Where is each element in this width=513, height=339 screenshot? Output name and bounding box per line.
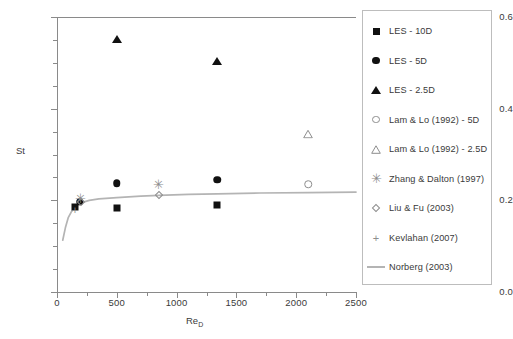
y-tick-label: 0.0 [467,286,513,297]
x-tick-label: 0 [37,297,77,308]
x-axis-title-base: Re [186,315,198,326]
y-tick [53,132,57,133]
x-tick [266,292,267,296]
legend-item[interactable]: +Kevlahan (2007) [363,227,493,249]
legend-item-label: LES - 10D [389,26,432,36]
legend-item[interactable]: ✳Zhang & Dalton (1997) [363,168,493,190]
legend: LES - 10DLES - 5DLES - 2.5DLam & Lo (199… [362,10,492,285]
y-tick [53,223,57,224]
legend-item-label: Kevlahan (2007) [389,233,458,243]
line-icon [363,256,389,278]
x-axis-title-subscript: D [198,321,203,328]
data-point [303,129,313,138]
y-tick [51,17,57,18]
data-point [113,205,120,212]
x-tick-label: 500 [97,297,137,308]
legend-item-label: Norberg (2003) [389,262,453,272]
data-point [112,35,122,43]
x-tick [207,292,208,296]
legend-item-label: Zhang & Dalton (1997) [389,174,484,184]
filled-square-icon [363,20,389,42]
data-point [214,201,221,208]
legend-item[interactable]: Liu & Fu (2003) [363,197,493,219]
y-tick [53,63,57,64]
open-circle-icon [363,109,389,131]
legend-item-label: Lam & Lo (1992) - 2.5D [389,144,487,154]
x-tick-label: 2500 [336,297,376,308]
data-point [113,180,121,188]
data-point: ✳ [153,180,165,189]
open-triangle-icon [363,138,389,160]
y-tick [53,269,57,270]
x-tick-label: 1000 [157,297,197,308]
data-point: + [69,206,81,214]
plus-icon: + [363,227,389,249]
y-axis-title: St [16,145,25,156]
y-tick [51,200,57,201]
y-tick [53,40,57,41]
y-tick [51,109,57,110]
x-tick [87,292,88,296]
data-point [304,181,312,189]
legend-item[interactable]: Lam & Lo (1992) - 2.5D [363,138,493,160]
legend-item[interactable]: Norberg (2003) [363,256,493,278]
open-diamond-icon [363,197,389,219]
legend-item[interactable]: LES - 5D [363,50,493,72]
asterisk-icon: ✳ [363,168,389,190]
y-tick [53,86,57,87]
legend-item-label: Lam & Lo (1992) - 5D [389,115,479,125]
y-tick [53,177,57,178]
filled-triangle-icon [363,79,389,101]
x-tick [147,292,148,296]
x-tick [326,292,327,296]
legend-item-label: Liu & Fu (2003) [389,203,454,213]
y-tick [53,155,57,156]
legend-item[interactable]: LES - 2.5D [363,79,493,101]
x-tick-label: 1500 [216,297,256,308]
data-point [212,57,222,65]
plot-area [57,17,356,292]
legend-item-label: LES - 5D [389,56,427,66]
strouhal-reynolds-chart: 0.00.20.40.605001000150020002500 ✳✳+ St … [0,0,513,339]
data-point [214,176,222,184]
x-tick-label: 2000 [276,297,316,308]
legend-item[interactable]: Lam & Lo (1992) - 5D [363,109,493,131]
legend-item[interactable]: LES - 10D [363,20,493,42]
y-tick [53,246,57,247]
x-axis-title: ReD [186,315,203,328]
legend-item-label: LES - 2.5D [389,85,435,95]
filled-circle-icon [363,50,389,72]
